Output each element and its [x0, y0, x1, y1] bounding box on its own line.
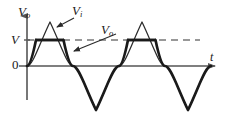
x-axis-label: t [210, 51, 213, 63]
output-falling-trough-1 [64, 40, 120, 110]
leader-line-vi [57, 18, 74, 27]
waveform-plot [0, 0, 235, 127]
clip-level-label: V [11, 33, 19, 46]
waveform-figure: Vo Vi Vo V 0 t [0, 0, 235, 127]
y-axis-label: Vo [18, 5, 30, 18]
output-falling-trough-2 [156, 40, 212, 110]
output-waveform-label: Vo [101, 23, 113, 36]
origin-label: 0 [12, 58, 19, 71]
input-waveform-label: Vi [72, 4, 82, 17]
